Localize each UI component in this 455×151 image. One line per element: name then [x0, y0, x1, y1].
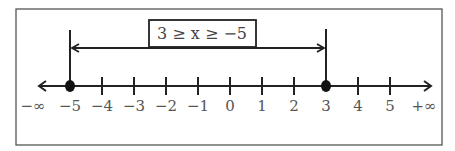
positive-infinity-label: +∞: [411, 97, 436, 115]
closed-endpoint-upper: [321, 80, 331, 92]
tick-label: −1: [187, 97, 209, 115]
tick-label: −2: [155, 97, 177, 115]
number-line-diagram: −5−4−3−2−1012345 3 ≥ x ≥ −5 −∞ +∞: [0, 0, 455, 151]
tick-label: 4: [353, 97, 363, 115]
tick-label: −4: [91, 97, 113, 115]
closed-endpoint-lower: [65, 80, 75, 92]
tick-label: −5: [59, 97, 81, 115]
tick-label: 3: [321, 97, 331, 115]
inequality-label: 3 ≥ x ≥ −5: [157, 24, 247, 43]
tick-label: 5: [385, 97, 395, 115]
negative-infinity-label: −∞: [20, 97, 45, 115]
tick-label: 1: [257, 97, 267, 115]
tick-label: 2: [289, 97, 299, 115]
tick-label: −3: [123, 97, 145, 115]
tick-label: 0: [225, 97, 235, 115]
tick-labels: −5−4−3−2−1012345: [59, 97, 395, 115]
